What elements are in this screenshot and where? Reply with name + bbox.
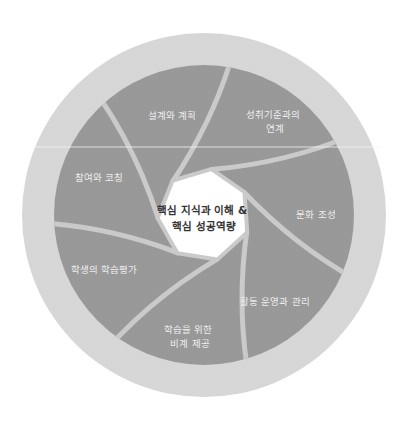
label-line: 연계: [266, 123, 284, 134]
blade-label-engagement-coaching: 참여와 코칭: [75, 172, 123, 183]
label-line: 활동 운영과 관리: [240, 296, 309, 307]
label-line: 성취기준과의: [246, 109, 300, 120]
label-line: 참여와 코칭: [75, 172, 123, 183]
label-line: 설계와 계획: [148, 110, 196, 121]
blade-label-activity-management: 활동 운영과 관리: [240, 296, 309, 307]
blade-label-design-planning: 설계와 계획: [148, 110, 196, 121]
aperture-diagram: 설계와 계획 성취기준과의 연계 문화 조성 활동 운영과 관리 학습을 위한 …: [0, 0, 409, 431]
blade-label-culture-building: 문화 조성: [296, 209, 335, 220]
center-label-line: 핵심 성공역량: [172, 220, 236, 232]
center-label-line: 핵심 지식과 이해 &: [157, 204, 247, 216]
label-line: 학생의 학습평가: [71, 264, 137, 275]
label-line: 학습을 위한: [164, 324, 212, 335]
blade-label-student-assessment: 학생의 학습평가: [71, 264, 137, 275]
label-line: 문화 조성: [296, 209, 335, 220]
label-line: 비계 제공: [170, 338, 209, 349]
